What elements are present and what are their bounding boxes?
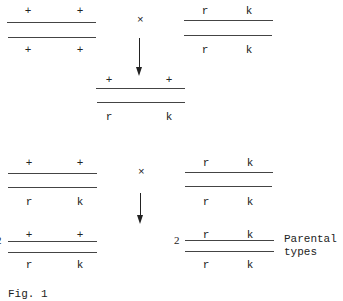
cross-symbol: × [137, 15, 144, 26]
allele: k [166, 112, 173, 123]
chromosome-line [7, 22, 96, 23]
count-label: 2 [174, 235, 180, 246]
allele: k [246, 6, 253, 17]
chromosome-line [185, 186, 272, 187]
chromosome-line [97, 102, 185, 103]
allele: k [246, 45, 253, 56]
allele: r [202, 6, 209, 17]
chromosome-line [96, 88, 185, 89]
allele: r [202, 45, 209, 56]
allele: r [26, 197, 33, 208]
allele: r [203, 158, 210, 169]
chromosome-line [8, 37, 96, 38]
chromosome-line [185, 172, 273, 173]
arrow-head-icon [137, 215, 143, 224]
cross-symbol: × [138, 167, 145, 178]
parental-label: Parental [284, 233, 337, 246]
allele: + [77, 6, 84, 17]
allele: k [247, 158, 254, 169]
arrow-head-icon [136, 67, 142, 76]
figure-caption: Fig. 1 [8, 288, 48, 301]
chromosome-line [184, 20, 273, 21]
allele: k [247, 197, 254, 208]
allele: r [106, 112, 113, 123]
allele: + [77, 158, 84, 169]
allele: + [166, 75, 173, 86]
allele: + [106, 75, 113, 86]
chromosome-line [8, 241, 97, 242]
allele: + [77, 230, 84, 241]
chromosome-line [185, 251, 274, 252]
types-label: types [284, 246, 317, 259]
chromosome-line [8, 252, 97, 253]
chromosome-line [184, 35, 272, 36]
allele: + [25, 6, 32, 17]
chromosome-line [8, 187, 97, 188]
allele: r [26, 260, 33, 271]
allele: k [247, 260, 254, 271]
allele: + [77, 45, 84, 56]
count-label: 2 [0, 235, 2, 246]
allele: r [203, 260, 210, 271]
chromosome-line [8, 173, 97, 174]
allele: + [26, 230, 33, 241]
allele: + [25, 45, 32, 56]
allele: r [203, 197, 210, 208]
allele: + [26, 158, 33, 169]
chromosome-line [185, 240, 274, 241]
allele: k [77, 260, 84, 271]
allele: k [77, 197, 84, 208]
arrow-down-icon [139, 38, 140, 68]
arrow-down-icon [140, 193, 141, 216]
